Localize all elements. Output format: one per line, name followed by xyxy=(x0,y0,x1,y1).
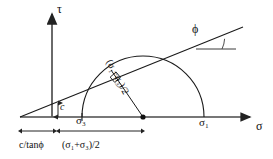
tau-axis-label: τ xyxy=(57,3,62,15)
friction-angle-label: ϕ xyxy=(192,23,198,35)
sigma-axis-label: σ xyxy=(256,120,262,132)
mohr-circle xyxy=(82,56,204,117)
phi-angle-arc xyxy=(222,39,225,49)
mean-stress-label: (σ₁+σ₃)/2 xyxy=(62,140,100,150)
failure-envelope-line xyxy=(20,27,243,117)
diagram-canvas xyxy=(0,0,273,159)
cohesion-label: c xyxy=(60,102,64,112)
circle-center-dot xyxy=(140,114,145,119)
sigma1-label: σ₁ xyxy=(199,117,209,128)
sigma3-label: σ₃ xyxy=(76,115,86,126)
c-over-tan-phi-label: c/tanϕ xyxy=(19,140,44,150)
mohr-circle-figure: τ σ ϕ c σ₃ σ₁ c/tanϕ (σ₁+σ₃)/2 (σ₁−σ₃)/2 xyxy=(0,0,273,159)
